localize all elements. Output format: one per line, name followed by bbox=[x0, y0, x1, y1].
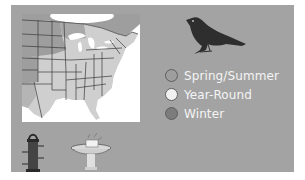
birdbath-icon bbox=[70, 132, 112, 172]
season-legend: Spring/Summer Year-Round Winter bbox=[165, 66, 279, 123]
legend-label: Spring/Summer bbox=[184, 69, 279, 83]
range-map bbox=[22, 14, 140, 122]
range-map-icon bbox=[22, 14, 140, 122]
winter-swatch-icon bbox=[165, 107, 178, 120]
tube-feeder-icon bbox=[20, 132, 46, 174]
spring-summer-swatch-icon bbox=[165, 69, 178, 82]
legend-item-winter: Winter bbox=[165, 104, 279, 123]
legend-label: Winter bbox=[184, 107, 224, 121]
year-round-swatch-icon bbox=[165, 88, 178, 101]
bird-silhouette-icon bbox=[182, 14, 248, 56]
legend-item-year-round: Year-Round bbox=[165, 85, 279, 104]
legend-item-spring-summer: Spring/Summer bbox=[165, 66, 279, 85]
legend-label: Year-Round bbox=[184, 88, 252, 102]
